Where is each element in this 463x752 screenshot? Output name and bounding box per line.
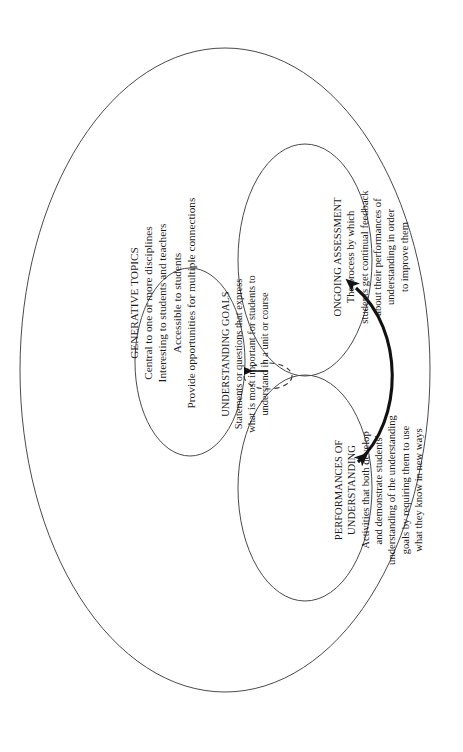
generative-topics-line-3: Accessible to students [170, 158, 184, 448]
understanding-goals-line-1: Statements or questions that express [232, 264, 245, 444]
ongoing-assessment-line-3: about their performances of [371, 167, 384, 347]
understanding-goals-title: UNDERSTANDING GOALS [219, 264, 232, 444]
generative-topics-title: GENERATIVE TOPICS [127, 158, 141, 448]
figure-canvas: GENERATIVE TOPICS Central to one or more… [0, 0, 463, 752]
performances-line-1: Activities that both develop [359, 400, 372, 580]
generative-topics-label: GENERATIVE TOPICS Central to one or more… [127, 158, 198, 448]
performances-line-3: understanding of the understanding [385, 400, 398, 580]
performances-title-line-2: UNDERSTANDING [345, 400, 358, 580]
ongoing-assessment-line-4: understanding in order [384, 167, 397, 347]
ongoing-assessment-line-5: to improve them [398, 167, 411, 347]
ongoing-assessment-title: ONGOING ASSESSMENT [331, 167, 344, 347]
understanding-goals-label: UNDERSTANDING GOALS Statements or questi… [219, 264, 271, 444]
understanding-goals-line-2: what is most important for students to [245, 264, 258, 444]
ongoing-assessment-line-1: The process by which [344, 167, 357, 347]
performances-title-line-1: PERFORMANCES OF [332, 400, 345, 580]
understanding-goals-line-3: understand in a unit or course [258, 264, 271, 444]
generative-topics-line-2: Interesting to students and teachers [155, 158, 169, 448]
performances-of-understanding-label: PERFORMANCES OF UNDERSTANDING Activities… [332, 400, 425, 580]
performances-line-5: what they know in new ways [412, 400, 425, 580]
ongoing-assessment-label: ONGOING ASSESSMENT The process by which … [331, 167, 411, 347]
performances-line-2: and demonstrate students' [372, 400, 385, 580]
ongoing-assessment-line-2: students get continual feedback [358, 167, 371, 347]
performances-line-4: goals by requiring them to use [399, 400, 412, 580]
generative-topics-line-4: Provide opportunities for multiple conne… [184, 158, 198, 448]
generative-topics-line-1: Central to one or more disciplines [141, 158, 155, 448]
